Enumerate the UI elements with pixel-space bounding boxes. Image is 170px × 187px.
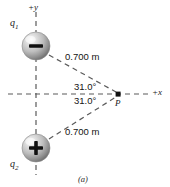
angle-label-lower: 31.0° — [74, 96, 96, 106]
point-p-label: P — [115, 99, 121, 108]
physics-figure: +y +x q1 q2 0.700 m 0.700 m 31.0° 31.0° … — [0, 0, 170, 187]
charge-sphere-q2 — [22, 134, 50, 162]
distance-label-lower: 0.700 m — [65, 127, 99, 137]
x-axis-label: +x — [152, 88, 162, 97]
charge-label-q1: q1 — [10, 18, 19, 31]
charge-sphere-q1 — [22, 32, 50, 60]
charge-label-q1-subscript: 1 — [15, 23, 19, 31]
charge-label-q2-subscript: 2 — [15, 164, 19, 172]
angle-label-upper: 31.0° — [74, 82, 96, 92]
figure-drawing — [0, 0, 170, 187]
charge-label-q2: q2 — [10, 159, 19, 172]
figure-caption: (a) — [78, 175, 88, 184]
point-p-marker — [116, 92, 121, 97]
y-axis-label: +y — [28, 3, 38, 12]
distance-label-upper: 0.700 m — [65, 52, 99, 62]
minus-sign-icon — [29, 44, 43, 48]
